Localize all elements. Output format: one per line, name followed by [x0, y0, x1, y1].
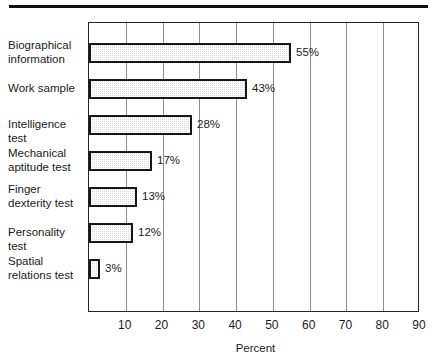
gridline-60 [310, 23, 311, 311]
category-label: Finger dexterity test [8, 182, 84, 210]
category-label: Biographical information [8, 38, 84, 66]
x-tick-label-90: 90 [406, 318, 432, 332]
top-horizontal-rule [9, 5, 428, 8]
gridline-70 [346, 23, 347, 311]
x-tick-label-60: 60 [296, 318, 322, 332]
gridline-80 [383, 23, 384, 311]
category-label: Mechanical aptitude test [8, 146, 84, 174]
bar [89, 43, 291, 63]
bar-value-label: 3% [105, 258, 122, 278]
x-tick-label-70: 70 [332, 318, 358, 332]
x-tick-label-80: 80 [369, 318, 395, 332]
bar-value-label: 55% [296, 42, 319, 62]
x-tick-label-20: 20 [149, 318, 175, 332]
gridline-50 [273, 23, 274, 311]
gridline-30 [199, 23, 200, 311]
x-tick-label-40: 40 [222, 318, 248, 332]
bar [89, 187, 137, 207]
plot-area [88, 22, 419, 312]
category-label: Personality test [8, 225, 84, 253]
x-tick-label-30: 30 [185, 318, 211, 332]
x-axis-title-text: Percent [236, 342, 276, 354]
gridline-40 [236, 23, 237, 311]
bar-value-label: 43% [252, 78, 275, 98]
bar-value-label: 12% [138, 222, 161, 242]
bar-value-label: 17% [157, 150, 180, 170]
category-label: Spatial relations test [8, 254, 84, 282]
bar-value-label: 13% [142, 186, 165, 206]
category-label: Work sample [8, 81, 84, 95]
bar [89, 79, 247, 99]
category-label: Intelligence test [8, 117, 84, 145]
bar [89, 151, 152, 171]
bar [89, 115, 192, 135]
bar-value-label: 28% [197, 114, 220, 134]
x-axis-title: Percent [0, 342, 435, 354]
bar [89, 259, 100, 279]
bar [89, 223, 133, 243]
x-tick-label-10: 10 [112, 318, 138, 332]
x-tick-label-50: 50 [259, 318, 285, 332]
